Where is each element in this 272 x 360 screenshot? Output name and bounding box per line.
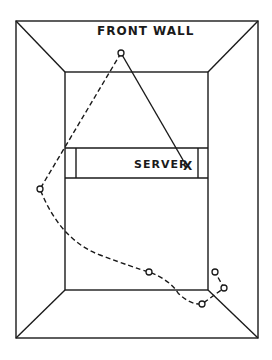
corner-line-bottom-left [16, 290, 65, 338]
ball-point-icon [37, 186, 43, 192]
corner-line-top-right [208, 21, 258, 72]
court-diagram [0, 0, 272, 360]
ball-point-icon [118, 50, 124, 56]
serve-path-solid [121, 53, 183, 160]
back-wall-rect [65, 72, 208, 290]
front-wall-label: FRONT WALL [97, 24, 194, 38]
ball-point-icon [221, 285, 227, 291]
server-x-mark-icon: X [183, 159, 193, 173]
corner-line-top-left [16, 21, 65, 72]
server-label: SERVER [134, 158, 188, 171]
corner-line-bottom-right [208, 290, 258, 338]
ball-point-icon [146, 269, 152, 275]
ball-point-icon [212, 269, 218, 275]
ball-point-icon [199, 301, 205, 307]
